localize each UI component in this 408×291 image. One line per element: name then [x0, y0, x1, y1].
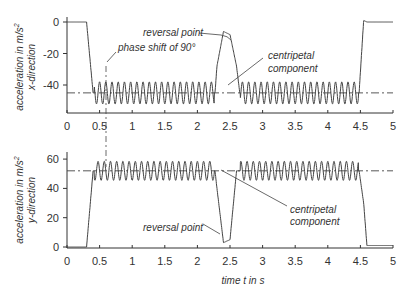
x-tick-label: 0	[64, 120, 70, 132]
x-tick-label: 4.5	[353, 120, 368, 132]
y-tick-label: -20	[43, 48, 59, 60]
bottom-centripetal-annotation-1: centripetal	[290, 204, 337, 215]
bottom-y-ticks: 0204060	[47, 153, 67, 253]
x-tick-label: 2	[194, 120, 200, 132]
x-tick-label: 1.5	[157, 120, 172, 132]
top-centripetal-leader	[228, 58, 263, 85]
x-tick-label: 3	[260, 255, 266, 267]
x-tick-label: 1.5	[157, 255, 172, 267]
x-tick-label: 0.5	[92, 120, 107, 132]
x-tick-label: 2	[194, 255, 200, 267]
x-tick-label: 1	[129, 255, 135, 267]
bottom-y-label: acceleration in m/s2	[13, 156, 25, 243]
bottom-reversal-point-annotation: reversal point	[143, 222, 204, 233]
x-tick-label: 4.5	[353, 255, 368, 267]
y-tick-label: 0	[53, 241, 59, 253]
phase-shift-annotation: phase shift of 90°	[117, 42, 195, 53]
y-tick-label: 40	[47, 182, 59, 194]
bottom-y-label-direction: y-direction	[26, 177, 37, 225]
top-y-ticks: 0-20-40	[43, 16, 67, 91]
x-tick-label: 5	[390, 120, 396, 132]
chart: 0-20-40 00.511.522.533.544.55 accelerati…	[0, 0, 408, 291]
top-panel: 0-20-40 00.511.522.533.544.55 accelerati…	[13, 16, 396, 132]
x-tick-label: 3.5	[288, 255, 303, 267]
y-tick-label: 60	[47, 153, 59, 165]
bottom-centripetal-leader	[221, 170, 287, 206]
x-tick-label: 4	[325, 255, 331, 267]
x-tick-label: 4	[325, 120, 331, 132]
bottom-panel: 0204060 00.511.522.533.544.55 accelerati…	[13, 152, 396, 286]
top-reversal-point-annotation: reversal point	[143, 27, 204, 38]
y-tick-label: 20	[47, 212, 59, 224]
x-axis-label: time t in s	[222, 275, 265, 286]
top-centripetal-annotation-2: component	[268, 63, 319, 74]
top-y-label-direction: x-direction	[26, 44, 37, 92]
top-y-label: acceleration in m/s2	[13, 23, 25, 110]
x-tick-label: 5	[390, 255, 396, 267]
top-centripetal-annotation-1: centripetal	[268, 50, 315, 61]
top-reversal-leader	[199, 33, 231, 40]
phase-shift-leader	[107, 52, 116, 62]
bottom-acceleration-curve	[67, 161, 393, 247]
y-tick-label: 0	[53, 16, 59, 28]
x-tick-label: 3.5	[288, 120, 303, 132]
y-tick-label: -40	[43, 79, 59, 91]
x-tick-label: 0	[64, 255, 70, 267]
bottom-reversal-leader	[203, 224, 220, 234]
x-tick-label: 0.5	[92, 255, 107, 267]
x-tick-label: 3	[260, 120, 266, 132]
x-tick-label: 2.5	[222, 120, 237, 132]
x-tick-label: 2.5	[222, 255, 237, 267]
x-tick-label: 1	[129, 120, 135, 132]
top-acceleration-curve	[67, 21, 393, 104]
bottom-centripetal-annotation-2: component	[290, 216, 341, 227]
